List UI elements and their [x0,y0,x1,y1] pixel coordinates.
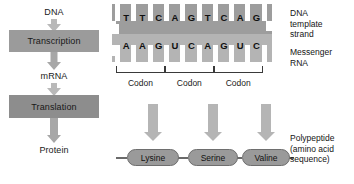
codon-bracket [165,66,214,73]
mrna-base: A [202,40,214,51]
amino-acid-pill: Serine [188,149,238,166]
polypeptide-label: Polypeptide (amino acid sequence) [290,133,334,165]
dna-left-edge-notch-2 [116,24,119,34]
dna-base: G [251,12,263,23]
dna-base: C [218,12,230,23]
mrna-base: A [120,40,132,51]
translation-arrow [204,104,222,141]
dna-right-edge-notch [266,21,272,31]
amino-acid-pill: Valine [242,149,290,166]
codon-bracket [116,66,165,73]
mrna-base: G [218,40,230,51]
mrna-base: A [136,40,148,51]
dna-base: A [234,12,246,23]
mrna-base: U [169,40,181,51]
mrna-base: C [251,40,263,51]
codon-bracket [214,66,263,73]
dna-base: A [169,12,181,23]
dna-base: G [185,12,197,23]
dna-base: T [136,12,148,23]
messenger-rna-label: Messenger RNA [290,47,332,68]
arrow-transcription-to-mrna [47,52,61,70]
mrna-base: U [234,40,246,51]
transcription-box: Transcription [9,30,99,52]
amino-acid-pill: Lysine [127,149,179,166]
peptide-bond-terminal-left [116,157,127,159]
codon-label: Codon [208,78,269,88]
mrna-base: C [185,40,197,51]
peptide-bond-1 [178,157,188,159]
mrna-base: G [153,40,165,51]
arrow-translation-to-protein [46,118,62,143]
flow-middle-label: mRNA [14,71,94,81]
translation-box: Translation [9,95,99,118]
diagram-canvas: DNA Transcription mRNA Translation Prote… [0,0,354,184]
dna-base: T [202,12,214,23]
dna-base: T [120,12,132,23]
translation-arrow [257,104,275,141]
flow-end-label: Protein [14,145,94,155]
dna-base: C [153,12,165,23]
base-pairing-diagram: TATACGAUGCTACGAUGC [112,4,272,62]
flow-start-label: DNA [14,7,94,17]
dna-template-strand-label: DNA template strand [290,8,323,40]
translation-arrow [144,104,162,141]
